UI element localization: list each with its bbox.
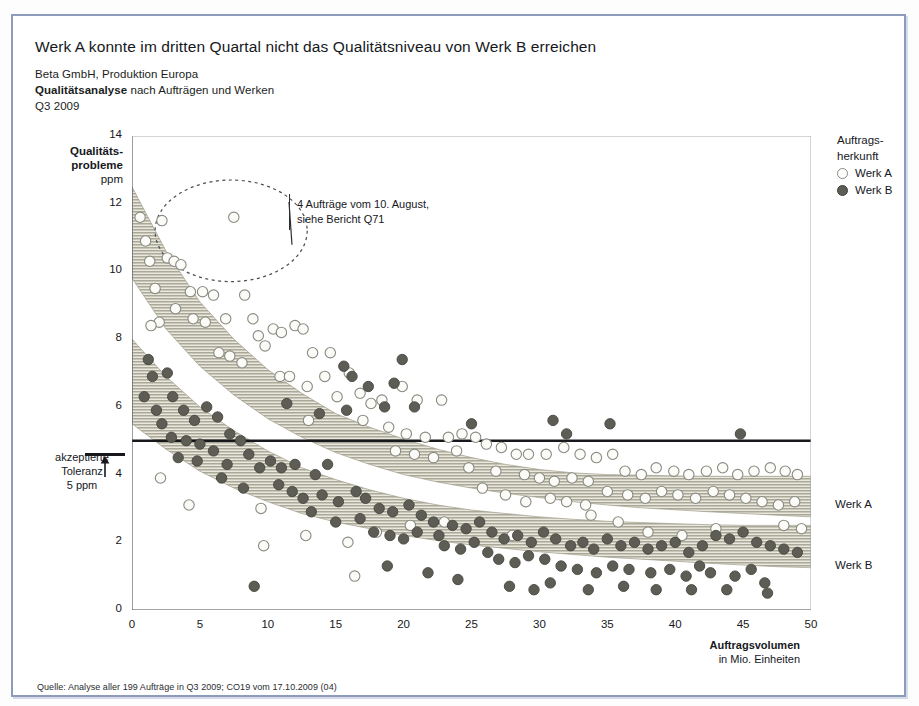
data-point [697,541,707,551]
legend-item-werk-a[interactable]: Werk A [837,165,919,181]
data-point [151,405,161,415]
data-point [780,466,790,476]
data-point [735,429,745,439]
band-label-werk-b: Werk B [835,559,873,571]
data-point [307,348,317,358]
data-point [244,449,254,459]
data-point [620,466,630,476]
x-tick-label: 35 [592,618,622,630]
data-point [494,554,504,564]
data-point [265,456,275,466]
x-tick-label: 25 [457,618,487,630]
data-point [301,530,311,540]
data-point [443,432,453,442]
document-body: Werk A konnte im dritten Quartal nicht d… [13,16,904,695]
data-point [757,497,767,507]
data-point [360,493,370,503]
data-point [686,585,696,595]
x-tick-label: 45 [728,618,758,630]
data-point [779,544,789,554]
data-point [477,483,487,493]
data-point [332,392,342,402]
data-point [513,530,523,540]
data-point [762,588,772,598]
data-point [491,466,501,476]
legend-item-werk-b[interactable]: Werk B [837,182,919,198]
data-point [556,561,566,571]
data-point [310,469,320,479]
data-point [412,527,422,537]
data-point [629,537,639,547]
x-tick-label: 0 [117,618,147,630]
data-point [253,331,263,341]
data-point [168,392,178,402]
data-point [259,541,269,551]
data-point [765,541,775,551]
tolerance-line3: 5 ppm [39,478,125,492]
data-point [583,585,593,595]
data-point [618,581,628,591]
data-point [306,507,316,517]
data-point [274,480,284,490]
data-point [578,537,588,547]
data-point [208,290,218,300]
data-point [481,439,491,449]
data-point [455,544,465,554]
chart-canvas [132,136,811,610]
data-point [548,415,558,425]
data-point [188,314,198,324]
y-axis-title-line1: Qualitäts- [41,144,123,158]
data-point [214,348,224,358]
data-point [347,371,357,381]
y-tick-label: 12 [96,196,122,208]
data-point [589,544,599,554]
data-point [670,537,680,547]
data-point [436,395,446,405]
y-tick-label: 8 [96,331,122,343]
data-point [409,449,419,459]
data-point [379,402,389,412]
data-point [540,554,550,564]
data-point [146,320,156,330]
data-point [221,314,231,324]
data-point [646,568,656,578]
data-point [237,358,247,368]
legend-title: Auftrags- herkunft [837,132,919,164]
data-point [439,541,449,551]
legend: Auftrags- herkunft Werk A Werk B [837,132,919,198]
data-point [684,547,694,557]
data-point [401,429,411,439]
data-point [382,561,392,571]
data-point [711,530,721,540]
data-point [681,571,691,581]
data-point [303,415,313,425]
data-point [192,456,202,466]
data-point [651,463,661,473]
data-point [170,304,180,314]
data-point [773,500,783,510]
x-tick-label: 15 [321,618,351,630]
subtitle-analysis-bold: Qualitätsanalyse [35,84,127,96]
legend-item-werk-a-label: Werk A [855,165,892,181]
data-point [388,507,398,517]
data-point [718,463,728,473]
y-axis-title-unit: ppm [41,172,123,186]
data-point [541,449,551,459]
data-point [256,503,266,513]
data-point [496,442,506,452]
data-point [225,351,235,361]
data-point [538,527,548,537]
data-point [317,490,327,500]
filled-circle-icon [837,185,848,196]
data-point [150,283,160,293]
data-point [724,490,734,500]
data-point [640,493,650,503]
data-point [298,324,308,334]
data-point [416,510,426,520]
data-point [643,544,653,554]
data-point [591,452,601,462]
data-point [523,551,533,561]
data-point [752,537,762,547]
data-point [222,459,232,469]
x-axis-title: Auftragsvolumen in Mio. Einheiten [660,638,800,666]
